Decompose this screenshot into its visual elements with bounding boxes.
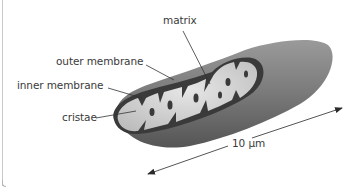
label-outer-membrane: outer membrane	[56, 55, 143, 67]
label-cristae: cristae	[62, 111, 97, 123]
mitochondrion-illustration	[0, 0, 345, 188]
scale-arrow-left	[148, 146, 228, 174]
label-matrix: matrix	[163, 14, 197, 26]
outer-membrane-leader-line	[146, 65, 174, 80]
label-inner-membrane: inner membrane	[17, 79, 103, 91]
label-scale: 10 μm	[232, 137, 265, 149]
